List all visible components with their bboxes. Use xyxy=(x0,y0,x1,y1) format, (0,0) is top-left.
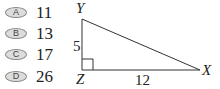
vertex-label-z: Z xyxy=(76,72,84,87)
right-angle-marker xyxy=(82,59,93,70)
side-label-yz: 5 xyxy=(73,39,81,54)
side-yx xyxy=(82,19,200,70)
side-label-zx: 12 xyxy=(135,73,150,88)
triangle-figure xyxy=(0,0,220,89)
vertex-label-x: X xyxy=(202,63,211,78)
vertex-label-y: Y xyxy=(76,1,84,16)
